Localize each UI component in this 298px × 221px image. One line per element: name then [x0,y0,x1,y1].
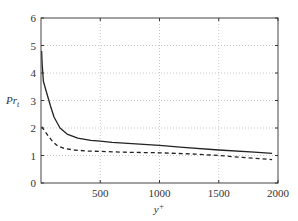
y-tick-label: 5 [31,40,37,52]
x-tick-label: 2000 [267,187,290,199]
y-tick-label: 1 [31,150,37,162]
x-tick-labels: 500100015002000 [92,187,290,199]
x-tick-label: 1500 [208,187,231,199]
y-axis-label: Prt [5,94,20,109]
y-tick-labels: 0123456 [31,12,37,189]
y-tick-label: 4 [31,67,37,79]
grid-lines [41,18,278,183]
series-solid-line [42,51,273,153]
x-tick-label: 1000 [149,187,172,199]
y-tick-label: 2 [31,122,37,134]
y-tick-label: 3 [31,95,37,107]
y-tick-label: 6 [31,12,37,24]
series-dashed-line [42,127,273,160]
data-series [42,51,273,160]
x-axis-label: y+ [153,202,164,215]
y-tick-label: 0 [31,177,37,189]
x-tick-label: 500 [92,187,109,199]
line-chart: 500100015002000 0123456 y+ Prt [0,0,298,221]
